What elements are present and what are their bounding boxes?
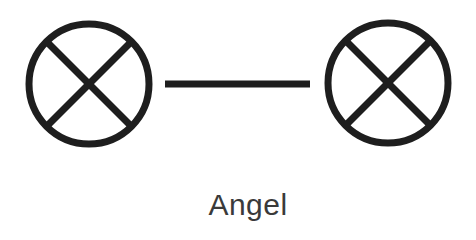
diagram-label: Angel bbox=[0, 188, 476, 222]
right-crossed-circle-icon bbox=[328, 23, 448, 143]
left-crossed-circle-icon bbox=[29, 24, 149, 144]
